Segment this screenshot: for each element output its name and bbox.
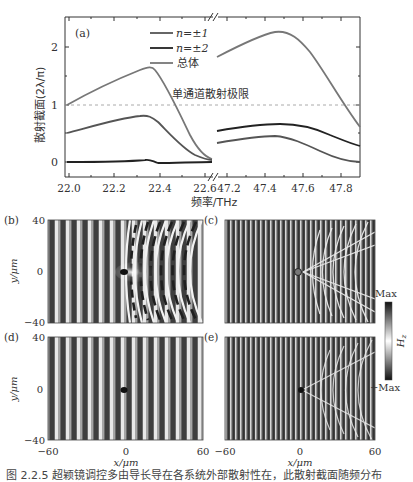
series-n2-left	[67, 160, 212, 163]
reference-line-label: 单通道散射极限	[172, 87, 249, 101]
panel-d-label: (d)	[4, 331, 19, 343]
panel-d-x-tick-left: −60	[37, 446, 58, 457]
figure-caption: 图 2.2.5 超颖镜调控多由导长导在各系统外部散射性在，此散射截面随频分布	[6, 466, 411, 482]
series-n2-right	[217, 124, 360, 146]
panel-d-x-tick-mid: 0	[123, 446, 129, 457]
panel-e-x-tick-right: 60	[369, 446, 382, 457]
panel-e-label: (e)	[204, 331, 218, 343]
series-n1-right	[217, 136, 360, 162]
x-tick-22.2: 22.2	[102, 182, 125, 194]
colorbar-max-label: Max	[375, 288, 397, 299]
y-tick-1: 1	[51, 99, 58, 112]
legend: n=±1 n=±2 总体	[150, 27, 209, 70]
x-tick-22.0: 22.0	[57, 182, 80, 194]
series-total-left	[67, 67, 212, 159]
panel-a-chart: n=±1 n=±2 总体 (a) 单通道散射极限 0 1 2 散射截面(2λ/π…	[33, 13, 360, 209]
x-tick-22.6: 22.6	[193, 182, 217, 194]
series-n1-left	[67, 116, 212, 160]
legend-label-n1: n=±1	[176, 27, 209, 40]
x-tick-47.2: 47.2	[217, 182, 240, 194]
colorbar-min-label: −Max	[370, 382, 401, 393]
panel-e-x-tick-mid: 0	[297, 446, 303, 457]
panel-a-label: (a)	[75, 27, 90, 40]
panel-d-y-tick-top: 40	[32, 332, 45, 343]
panel-b-y-tick-top: 40	[32, 215, 45, 226]
panel-b-y-tick-bot: −40	[24, 317, 45, 328]
panel-c-field-map	[225, 220, 375, 323]
panel-d-y-axis-label: y/μm	[8, 377, 19, 403]
scatterer-marker	[298, 387, 304, 393]
panel-e-field-map	[225, 337, 375, 440]
panel-c-label: (c)	[204, 214, 218, 226]
panel-b-label: (b)	[4, 214, 19, 226]
series-total-right	[217, 32, 360, 127]
y-tick-0: 0	[51, 156, 58, 169]
y-axis-label: 散射截面(2λ/π)	[33, 67, 47, 143]
x-axis-label: 频率/THz	[191, 195, 238, 209]
panel-d-x-tick-right: 60	[197, 446, 210, 457]
panel-b-y-axis-label: y/μm	[8, 259, 19, 285]
panel-e-x-tick-left: −60	[214, 446, 235, 457]
scatterer-marker	[295, 269, 302, 276]
legend-label-total: 总体	[177, 56, 199, 70]
colorbar: Max −Max Hz	[370, 288, 408, 393]
colorbar-field-label: Hz	[395, 334, 408, 348]
panel-d-field-map	[48, 337, 203, 440]
x-tick-22.4: 22.4	[148, 182, 172, 194]
scatterer-marker	[121, 387, 128, 393]
panel-d-y-tick-mid: 0	[37, 384, 43, 395]
panel-d-y-tick-bot: −40	[24, 435, 45, 446]
panel-b-field-map	[48, 220, 203, 323]
scatterer-marker	[120, 269, 128, 275]
y-tick-2: 2	[51, 41, 58, 54]
panel-b-y-tick-mid: 0	[37, 266, 43, 277]
x-tick-47.8: 47.8	[329, 182, 352, 194]
legend-label-n2: n=±2	[176, 42, 209, 55]
x-tick-47.6: 47.6	[291, 182, 315, 194]
x-tick-47.4: 47.4	[253, 182, 277, 194]
